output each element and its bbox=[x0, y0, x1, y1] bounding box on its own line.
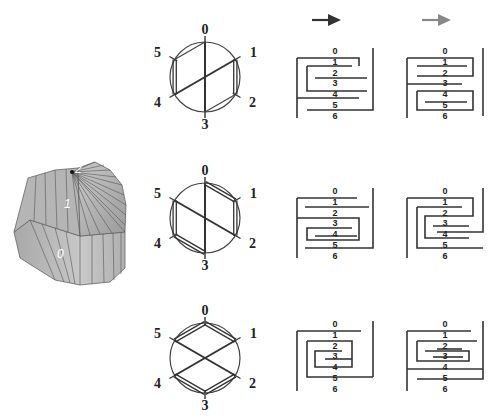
figure-canvas: 0 1 2 012345012345012345 012345601234560… bbox=[0, 0, 495, 420]
vertex-label-1: 1 bbox=[250, 186, 257, 201]
meander-label-1: 1 bbox=[332, 57, 337, 67]
polyhedron-label-1: 1 bbox=[64, 197, 71, 211]
meander-label-2: 2 bbox=[442, 208, 447, 218]
vertex-label-0: 0 bbox=[202, 163, 209, 178]
meander-0-0: 0123456 bbox=[297, 46, 373, 121]
meander-label-0: 0 bbox=[332, 186, 337, 196]
meander-line bbox=[417, 321, 483, 379]
meander-label-4: 4 bbox=[442, 89, 447, 99]
meander-line bbox=[307, 341, 352, 367]
polyhedron-label-0: 0 bbox=[57, 247, 64, 261]
vertex-label-1: 1 bbox=[250, 326, 257, 341]
meander-label-4: 4 bbox=[332, 89, 337, 99]
meander-1-1: 0123456 bbox=[407, 186, 483, 261]
polyhedron-label-2: 2 bbox=[74, 162, 82, 176]
polyhedron-figure: 0 1 2 bbox=[14, 162, 126, 285]
meander-label-0: 0 bbox=[442, 46, 447, 56]
edge-2-3 bbox=[205, 95, 235, 113]
circle-diagram-0: 012345 bbox=[154, 22, 257, 132]
vertex-label-5: 5 bbox=[154, 326, 161, 341]
meander-label-6: 6 bbox=[442, 111, 447, 121]
meander-label-6: 6 bbox=[442, 251, 447, 261]
edge-0-5 bbox=[175, 42, 205, 60]
edge-0-1-b bbox=[206, 322, 236, 340]
vertex-label-5: 5 bbox=[154, 45, 161, 60]
meander-label-6: 6 bbox=[332, 251, 337, 261]
vertex-label-1: 1 bbox=[250, 45, 257, 60]
meander-label-3: 3 bbox=[442, 218, 447, 228]
meander-label-1: 1 bbox=[332, 197, 337, 207]
vertex-label-5: 5 bbox=[154, 186, 161, 201]
meander-label-2: 2 bbox=[332, 68, 337, 78]
vertex-label-2: 2 bbox=[249, 95, 256, 110]
meander-label-1: 1 bbox=[442, 197, 447, 207]
meander-1-0: 0123456 bbox=[297, 186, 373, 261]
meander-label-3: 3 bbox=[332, 218, 337, 228]
circle-diagram-1: 012345 bbox=[154, 163, 257, 273]
meander-label-0: 0 bbox=[442, 319, 447, 329]
meander-0-1: 0123456 bbox=[407, 46, 483, 121]
meander-label-5: 5 bbox=[332, 100, 337, 110]
edge-4-3-a bbox=[174, 377, 204, 395]
meander-label-3: 3 bbox=[442, 78, 447, 88]
meander-label-4: 4 bbox=[332, 362, 337, 372]
arrow-dark bbox=[312, 14, 341, 26]
edge-3-2-a bbox=[206, 377, 236, 395]
meander-label-6: 6 bbox=[332, 384, 337, 394]
meander-line bbox=[297, 58, 359, 66]
meander-label-4: 4 bbox=[442, 229, 447, 239]
meander-label-4: 4 bbox=[442, 362, 447, 372]
meander-label-1: 1 bbox=[442, 57, 447, 67]
meander-label-2: 2 bbox=[442, 68, 447, 78]
meander-label-1: 1 bbox=[332, 330, 337, 340]
meander-label-5: 5 bbox=[332, 373, 337, 383]
arrow-light bbox=[422, 14, 451, 26]
vertex-label-4: 4 bbox=[154, 236, 161, 251]
edge-0-5-a bbox=[174, 322, 204, 340]
meander-label-4: 4 bbox=[332, 229, 337, 239]
circle-diagram-2: 012345 bbox=[154, 303, 257, 413]
meander-label-5: 5 bbox=[332, 240, 337, 250]
vertex-label-0: 0 bbox=[202, 303, 209, 318]
meander-label-3: 3 bbox=[332, 351, 337, 361]
vertex-label-3: 3 bbox=[202, 398, 209, 413]
meander-label-5: 5 bbox=[442, 373, 447, 383]
polyhedron-apex bbox=[70, 170, 74, 174]
vertex-label-2: 2 bbox=[249, 236, 256, 251]
vertex-label-3: 3 bbox=[202, 117, 209, 132]
meander-label-0: 0 bbox=[332, 46, 337, 56]
vertex-label-4: 4 bbox=[154, 95, 161, 110]
vertex-label-0: 0 bbox=[202, 22, 209, 37]
vertex-label-3: 3 bbox=[202, 258, 209, 273]
vertex-label-2: 2 bbox=[249, 376, 256, 391]
meander-label-2: 2 bbox=[332, 341, 337, 351]
vertex-label-4: 4 bbox=[154, 376, 161, 391]
edge-0-1-b bbox=[206, 182, 236, 200]
meander-label-0: 0 bbox=[442, 186, 447, 196]
meander-label-0: 0 bbox=[332, 319, 337, 329]
meander-label-5: 5 bbox=[442, 240, 447, 250]
edge-4-3-a bbox=[174, 237, 204, 255]
meander-label-2: 2 bbox=[332, 208, 337, 218]
meander-label-1: 1 bbox=[442, 330, 447, 340]
meander-2-1: 0123456 bbox=[407, 319, 483, 394]
meander-label-6: 6 bbox=[442, 384, 447, 394]
meander-label-3: 3 bbox=[442, 351, 447, 361]
meander-label-6: 6 bbox=[332, 111, 337, 121]
meander-label-2: 2 bbox=[442, 341, 447, 351]
meander-line bbox=[407, 58, 473, 76]
meander-label-5: 5 bbox=[442, 100, 447, 110]
meander-2-0: 0123456 bbox=[297, 319, 373, 394]
meander-label-3: 3 bbox=[332, 78, 337, 88]
